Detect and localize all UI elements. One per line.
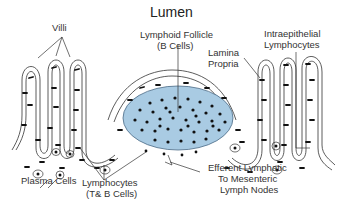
efferent-label-2: To Mesenteric xyxy=(218,173,277,184)
efferent-label-1: Efferent Lymphatic xyxy=(208,162,287,173)
plasma-cells-label: Plasma Cells xyxy=(21,175,76,186)
iel-label-2: Lymphocytes xyxy=(264,39,320,50)
left-villi-outline xyxy=(12,60,115,163)
peyers-patch-diagram: Lumen Villi Lymphoid Follicle (B Cells) … xyxy=(0,0,338,204)
lymphocytes-label-2: (T& B Cells) xyxy=(86,188,137,199)
lymphocytes-label-1: Lymphocytes xyxy=(82,177,138,188)
lumen-title: Lumen xyxy=(150,4,193,20)
right-villi-outline xyxy=(232,56,335,165)
villi-label: Villi xyxy=(52,22,67,33)
lamina-label-2: Propria xyxy=(208,58,239,69)
follicle-label-2: (B Cells) xyxy=(157,40,193,51)
lamina-label-1: Lamina xyxy=(208,47,239,58)
follicle-label-1: Lymphoid Follicle xyxy=(140,29,213,40)
iel-label-1: Intraepithelial xyxy=(264,28,321,39)
efferent-label-3: Lymph Nodes xyxy=(220,184,278,195)
